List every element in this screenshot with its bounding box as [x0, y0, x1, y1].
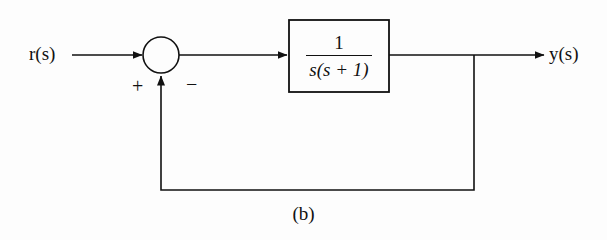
- summing-junction-plus-sign: +: [132, 76, 143, 96]
- figure-block-diagram: r(s) y(s) + − 1 s(s + 1) (b): [0, 0, 607, 240]
- transfer-function-numerator: 1: [334, 33, 344, 55]
- input-signal-label: r(s): [29, 44, 55, 63]
- summing-junction-circle: [143, 37, 179, 73]
- transfer-function-expression: 1 s(s + 1): [289, 20, 389, 92]
- summing-junction-minus-sign: −: [186, 74, 197, 94]
- output-signal-label: y(s): [549, 44, 579, 63]
- figure-caption: (b): [0, 204, 607, 223]
- transfer-function-denominator: s(s + 1): [309, 56, 368, 79]
